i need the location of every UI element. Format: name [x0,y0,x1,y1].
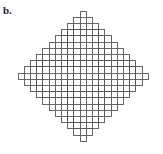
grid-cell [99,104,105,110]
grid-cell [68,92,74,98]
grid-cell [61,85,67,91]
grid-cell [37,92,43,98]
grid-cell [68,23,74,29]
grid-cell [92,116,98,122]
grid-cell [74,110,80,116]
grid-cell [80,116,86,122]
grid-cell [37,61,43,67]
grid-cell [74,104,80,110]
grid-cell [86,110,92,116]
grid-cell [43,54,49,60]
grid-cell [24,73,30,79]
grid-cell [43,85,49,91]
grid-cell [92,73,98,79]
grid-cell [86,48,92,54]
grid-cell [86,123,92,129]
grid-cell [99,48,105,54]
grid-cell [30,61,36,67]
grid-cell [117,85,123,91]
grid-cell [123,61,129,67]
grid-cell [130,85,136,91]
grid-cell [86,30,92,36]
grid-cell [61,116,67,122]
grid-cell [61,36,67,42]
grid-cell [80,92,86,98]
grid-cell [74,36,80,42]
grid-cell [92,36,98,42]
grid-cell [99,54,105,60]
grid-cell [24,67,30,73]
grid-cell [86,54,92,60]
grid-cell [117,67,123,73]
grid-cell [80,48,86,54]
grid-cell [30,85,36,91]
grid-cell [30,67,36,73]
grid-cell [105,73,111,79]
grid-cell [117,73,123,79]
grid-cell [68,110,74,116]
grid-cell [111,92,117,98]
grid-cell [43,73,49,79]
grid-cell [80,36,86,42]
grid-cell [37,73,43,79]
grid-cell [37,54,43,60]
grid-cell [68,104,74,110]
grid-cell [49,48,55,54]
grid-cell [86,36,92,42]
grid-cell [92,30,98,36]
grid-cell [99,61,105,67]
grid-cell [55,48,61,54]
grid-cell [117,61,123,67]
grid-cell [55,85,61,91]
grid-cell [117,79,123,85]
grid-cell [74,17,80,23]
grid-cell-group [18,11,148,141]
grid-cell [74,85,80,91]
grid-cell [68,42,74,48]
stepped-diamond-figure [0,0,163,154]
grid-cell [111,42,117,48]
grid-cell [111,67,117,73]
grid-cell [61,98,67,104]
grid-cell [80,11,86,17]
grid-cell [136,73,142,79]
grid-cell [105,42,111,48]
grid-cell [92,42,98,48]
grid-cell [111,54,117,60]
grid-cell [30,79,36,85]
grid-cell [111,104,117,110]
grid-cell [68,67,74,73]
grid-cell [105,54,111,60]
grid-cell [105,67,111,73]
grid-cell [130,73,136,79]
grid-cell [105,85,111,91]
grid-cell [86,104,92,110]
grid-cell [43,67,49,73]
grid-cell [86,67,92,73]
grid-cell [80,135,86,141]
grid-cell [142,73,148,79]
grid-cell [55,54,61,60]
grid-cell [111,48,117,54]
grid-cell [92,104,98,110]
grid-cell [117,98,123,104]
grid-cell [61,110,67,116]
grid-cell [111,61,117,67]
grid-cell [68,54,74,60]
grid-cell [99,110,105,116]
grid-cell [74,67,80,73]
grid-cell [80,30,86,36]
grid-cell [92,123,98,129]
grid-cell [43,61,49,67]
grid-cell [92,48,98,54]
grid-cell [99,30,105,36]
grid-cell [80,61,86,67]
grid-cell [80,73,86,79]
grid-cell [74,123,80,129]
grid-cell [130,79,136,85]
grid-cell [111,98,117,104]
grid-cell [80,123,86,129]
grid-cell [86,17,92,23]
grid-cell [123,92,129,98]
grid-cell [111,79,117,85]
